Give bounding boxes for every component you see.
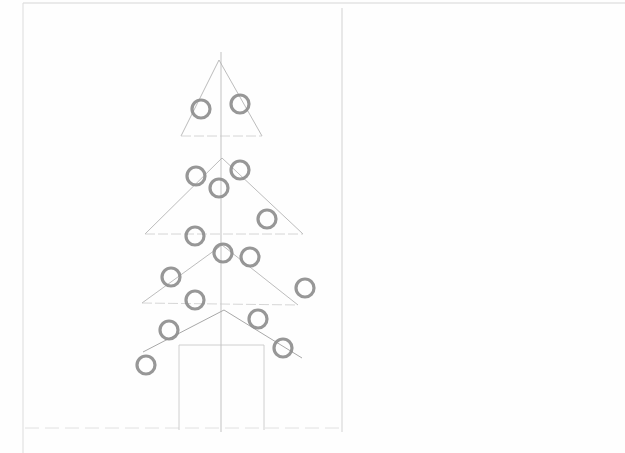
bottom-branch-outline: [143, 310, 302, 358]
ornament-circle: [274, 339, 292, 357]
ornament-circle: [258, 210, 276, 228]
ornament-circle: [210, 179, 228, 197]
trunk-outline: [179, 345, 264, 430]
ornament-circle: [214, 244, 232, 262]
tree-tier-3-outline: [142, 245, 298, 305]
ornament-circle: [186, 291, 204, 309]
ornament-circle: [187, 167, 205, 185]
ornament-circle: [249, 310, 267, 328]
ornament-circle: [296, 279, 314, 297]
ornament-circle: [241, 248, 259, 266]
ornament-circle: [231, 161, 249, 179]
tree-tier-3-base: [142, 303, 298, 305]
tree-tier-1-outline: [181, 60, 262, 136]
ornament-circle: [160, 321, 178, 339]
sketch-canvas: [0, 0, 625, 453]
christmas-tree-sketch: [0, 0, 625, 453]
ornament-circle: [137, 356, 155, 374]
ornament-circle: [186, 227, 204, 245]
